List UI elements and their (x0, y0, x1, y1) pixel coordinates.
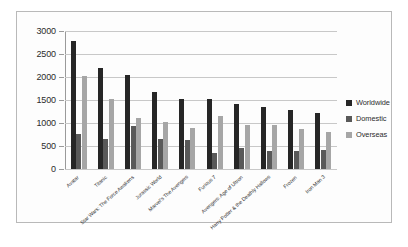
bar (218, 116, 223, 169)
y-axis-tick (59, 100, 64, 101)
bar (294, 151, 299, 169)
bar (98, 68, 103, 169)
x-axis-tick-label: Iron Man 3 (304, 190, 308, 194)
bar (315, 113, 320, 169)
bar (131, 126, 136, 169)
x-axis-tick-label: Star Wars: The Force Awakens (79, 221, 83, 225)
y-axis-tick-label: 500 (41, 141, 56, 151)
bar (109, 99, 114, 169)
bar (261, 107, 266, 169)
bar (321, 150, 326, 169)
bar (163, 122, 168, 169)
bar (71, 41, 76, 169)
x-axis-tick-label: Marvel's The Avengers (147, 208, 151, 212)
bar-group (71, 31, 87, 169)
legend-item[interactable]: Overseas (346, 130, 390, 139)
legend-swatch-icon (346, 116, 352, 122)
bar (185, 140, 190, 169)
legend-label: Worldwide (356, 98, 390, 107)
y-axis-tick (59, 77, 64, 78)
legend-item[interactable]: Worldwide (346, 98, 390, 107)
legend-swatch-icon (346, 132, 352, 138)
x-axis-tick-label: Furious 7 (197, 188, 201, 192)
bar (267, 151, 272, 169)
bar (299, 129, 304, 169)
gridline (65, 169, 337, 170)
y-axis-tick-label: 2500 (36, 49, 56, 59)
y-axis-tick-label: 1000 (36, 118, 56, 128)
y-axis-tick (59, 169, 64, 170)
plot-area: 300025002000150010005000 AvatarTitanicSt… (65, 31, 337, 169)
y-axis-tick (59, 146, 64, 147)
y-axis-tick-label: 0 (51, 164, 56, 174)
bar (179, 99, 184, 169)
bar (190, 128, 195, 169)
bar (326, 132, 331, 169)
bar (234, 104, 239, 169)
x-axis-tick-label: Harry Potter & the Deathly Hallows (209, 226, 213, 230)
legend-item[interactable]: Domestic (346, 114, 390, 123)
bar (212, 153, 217, 169)
x-axis-tick-label: Avatar (65, 184, 69, 188)
bar (239, 148, 244, 169)
y-axis-tick (59, 54, 64, 55)
bar-group (315, 31, 331, 169)
bar (76, 134, 81, 169)
bar-group (288, 31, 304, 169)
x-axis-tick-label: Frozen (282, 185, 286, 189)
y-axis-tick (59, 123, 64, 124)
x-axis-tick-label: Titanic (93, 184, 97, 188)
y-axis-tick-label: 1500 (36, 95, 56, 105)
bar-group (261, 31, 277, 169)
bar (272, 125, 277, 169)
bar (245, 125, 250, 169)
legend-swatch-icon (346, 100, 352, 106)
x-axis-tick-label: Jurassic World (134, 196, 138, 200)
bar-group (152, 31, 168, 169)
chart-legend: WorldwideDomesticOverseas (346, 98, 390, 139)
y-axis-tick-label: 3000 (36, 26, 56, 36)
bar-group (234, 31, 250, 169)
y-axis-tick-label: 2000 (36, 72, 56, 82)
bar (125, 75, 130, 169)
legend-label: Domestic (356, 114, 386, 123)
bar-group (98, 31, 114, 169)
chart-figure: 300025002000150010005000 AvatarTitanicSt… (16, 11, 392, 223)
legend-label: Overseas (356, 130, 387, 139)
bar-group (125, 31, 141, 169)
bar (288, 110, 293, 169)
bar (136, 118, 141, 169)
bar (152, 92, 157, 169)
bar (82, 76, 87, 169)
bar-group (179, 31, 195, 169)
x-axis-tick-label: Avengers: Age of Ultron (200, 210, 204, 214)
y-axis-tick (59, 31, 64, 32)
bar-group (207, 31, 223, 169)
bar (103, 139, 108, 169)
bar (207, 99, 212, 169)
bar (158, 139, 163, 169)
